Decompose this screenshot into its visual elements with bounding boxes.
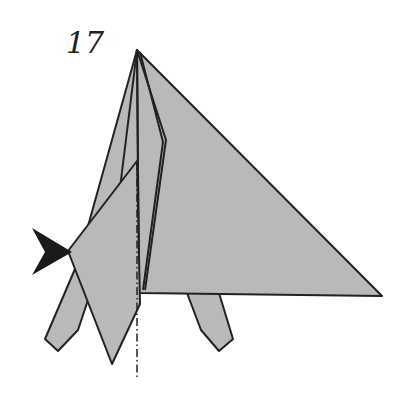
main-body [118,50,382,296]
right-leg [187,293,233,351]
origami-diagram [0,0,410,410]
push-arrow [32,228,72,275]
